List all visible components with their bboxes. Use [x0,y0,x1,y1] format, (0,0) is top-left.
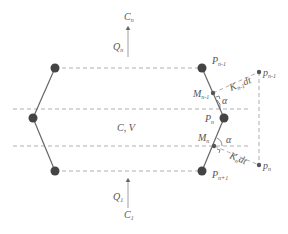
label-alpha-upper: α [222,95,228,106]
polygon-edges [33,68,224,171]
node-left [29,114,38,123]
node-top-left [51,64,60,73]
node-P-n-minus-1 [198,64,207,73]
label-C-n: Cn [124,11,134,23]
label-K-upper: Kn-1dt [227,74,253,94]
label-P-n: Pn [204,113,214,125]
label-P-n-plus-1: Pn+1 [211,169,228,181]
label-M-n: Mn [197,132,209,144]
label-Q-n: Qn [113,41,123,53]
label-C-1: C1 [124,209,134,221]
label-M-n-minus-1: Mn-1 [192,88,209,100]
label-p-n-minus-1: pn-1 [262,67,276,79]
point-M-n [212,144,216,148]
label-p-n: pn [262,160,271,172]
nodes [29,64,229,176]
node-bottom-left [51,167,60,176]
label-alpha-lower: α [226,134,232,145]
label-K-lower: Kndt [227,149,249,167]
point-p-n-minus-1 [257,70,261,74]
node-P-n-plus-1 [198,167,207,176]
point-p-n [257,163,261,167]
point-M-n-minus-1 [211,91,215,95]
label-P-n-minus-1: Pn-1 [211,55,226,67]
label-Q-1: Q1 [113,191,123,203]
polygon-diagram: Cn Qn Q1 C1 C, V Pn-1 Pn Pn+1 Mn-1 Mn pn… [0,0,288,234]
label-center-CV: C, V [117,122,137,133]
node-P-n [220,114,229,123]
